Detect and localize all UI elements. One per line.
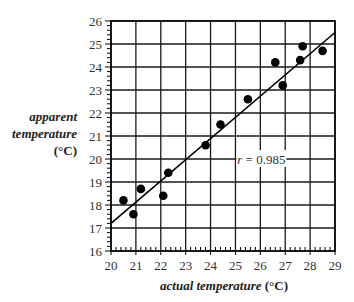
- data-point: [201, 141, 210, 150]
- x-tick-labels: 20212223242526272829: [105, 258, 342, 273]
- x-tick-label: 22: [154, 258, 167, 273]
- y-tick-label: 26: [89, 14, 103, 29]
- x-axis-title-unit: (°C): [265, 278, 288, 293]
- scatter-chart: r = 0.985 20212223242526272829 161718192…: [0, 0, 354, 302]
- x-tick-label: 29: [329, 258, 342, 273]
- data-point: [119, 196, 128, 205]
- y-axis-title-line1: apparent: [29, 109, 77, 124]
- y-tick-label: 22: [89, 106, 102, 121]
- y-tick-label: 21: [89, 129, 102, 144]
- data-point: [296, 56, 305, 65]
- r-value: = 0.985: [246, 152, 286, 167]
- data-point: [278, 81, 287, 90]
- y-tick-label: 24: [89, 60, 103, 75]
- data-point: [216, 120, 225, 129]
- x-axis-title: actual temperature (°C): [160, 278, 288, 293]
- y-axis-title-unit: (°C): [54, 143, 77, 158]
- x-tick-label: 24: [204, 258, 218, 273]
- data-point: [271, 58, 280, 67]
- correlation-annotation: r = 0.985: [236, 150, 286, 167]
- data-point: [164, 169, 173, 178]
- data-points: [119, 42, 327, 219]
- data-point: [244, 95, 253, 104]
- data-point: [129, 210, 138, 219]
- x-tick-label: 25: [229, 258, 242, 273]
- x-tick-label: 26: [254, 258, 268, 273]
- y-tick-label: 20: [89, 152, 102, 167]
- data-point: [137, 185, 146, 194]
- data-point: [298, 42, 307, 51]
- y-tick-label: 16: [89, 244, 103, 259]
- y-tick-labels: 1617181920212223242526: [89, 14, 103, 259]
- x-tick-label: 23: [179, 258, 192, 273]
- y-tick-label: 17: [89, 221, 103, 236]
- y-tick-label: 23: [89, 83, 102, 98]
- x-tick-label: 28: [304, 258, 317, 273]
- y-tick-label: 19: [89, 175, 102, 190]
- data-point: [159, 192, 168, 201]
- y-axis-title-line2: temperature: [12, 126, 77, 141]
- x-tick-label: 20: [105, 258, 118, 273]
- correlation-label: r = 0.985: [237, 152, 285, 167]
- x-axis-title-main: actual temperature: [160, 278, 262, 293]
- y-tick-label: 25: [89, 37, 102, 52]
- data-point: [318, 47, 327, 56]
- grid-lines: [111, 21, 335, 251]
- x-tick-label: 27: [279, 258, 293, 273]
- r-symbol: r: [237, 152, 243, 167]
- x-tick-label: 21: [129, 258, 142, 273]
- y-tick-label: 18: [89, 198, 102, 213]
